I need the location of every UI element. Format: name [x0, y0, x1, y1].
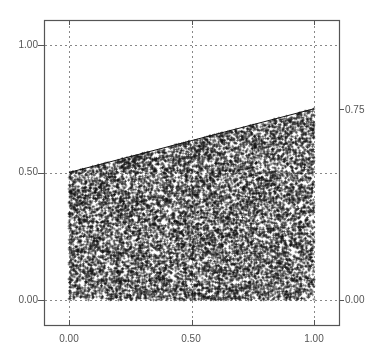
y-right-tick-0-00: 0.00: [345, 295, 380, 305]
y-left-tick-0-50: 0.50: [2, 167, 38, 177]
x-tick-0-00: 0.00: [49, 334, 89, 344]
x-tick-1-00: 1.00: [294, 334, 334, 344]
y-left-tick-1-00: 1.00: [2, 40, 38, 50]
scatter-chart: 1.00 0.50 0.00 0.75 0.00 0.00 0.50 1.00: [0, 0, 380, 358]
x-tick-0-50: 0.50: [171, 334, 211, 344]
y-right-tick-0-75: 0.75: [345, 105, 380, 115]
y-left-tick-0-00: 0.00: [2, 295, 38, 305]
plot-area: [0, 0, 380, 358]
